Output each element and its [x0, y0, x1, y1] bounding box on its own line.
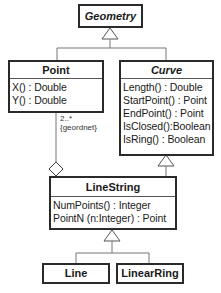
- generalization-arrow-icon: [158, 155, 174, 166]
- class-point[interactable]: Point X() : Double Y() : Double: [8, 60, 104, 113]
- operations-list: X() : Double Y() : Double: [10, 79, 102, 107]
- class-geometry[interactable]: Geometry: [78, 4, 143, 28]
- class-name: Geometry: [80, 6, 141, 26]
- operations-list: NumPoints() : Integer PointN (n:Integer)…: [51, 197, 175, 225]
- class-name: Curve: [121, 62, 212, 79]
- operations-list: Length() : Double StartPoint() : Point E…: [121, 79, 212, 146]
- class-linestring[interactable]: LineString NumPoints() : Integer PointN …: [49, 176, 177, 230]
- operation: Y() : Double: [12, 94, 102, 107]
- operation: Length() : Double: [123, 81, 212, 94]
- operation: IsClosed():Boolean: [123, 120, 212, 133]
- operation: PointN (n:Integer) : Point: [53, 212, 175, 225]
- class-name: Line: [44, 265, 108, 282]
- class-name: Point: [10, 62, 102, 79]
- operation: StartPoint() : Point: [123, 94, 212, 107]
- operation: NumPoints() : Integer: [53, 199, 175, 212]
- aggregation-diamond-icon: [49, 162, 63, 176]
- class-linearring[interactable]: LinearRing: [116, 263, 184, 284]
- generalization-arrow-icon: [104, 230, 120, 241]
- class-curve[interactable]: Curve Length() : Double StartPoint() : P…: [119, 60, 214, 156]
- class-line[interactable]: Line: [42, 263, 110, 284]
- operation: X() : Double: [12, 81, 102, 94]
- class-name: LineString: [51, 178, 175, 197]
- generalization-arrow-icon: [102, 28, 118, 39]
- operation: IsRing() : Boolean: [123, 133, 212, 146]
- multiplicity-label: 2..* {geordnet}: [60, 114, 97, 132]
- operation: EndPoint() : Point: [123, 107, 212, 120]
- class-name: LinearRing: [118, 265, 182, 282]
